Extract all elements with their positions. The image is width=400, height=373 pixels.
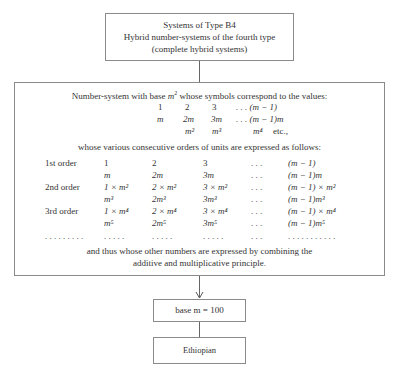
order-cell: (m − 1)m³ xyxy=(288,194,325,205)
closing-line-1: and thus whose other numbers are express… xyxy=(14,246,385,257)
order-cell: (m − 1)m xyxy=(288,170,322,181)
order-label: . . . . . . . . . xyxy=(45,231,83,242)
orders-intro: whose various consecutive orders of unit… xyxy=(14,142,385,153)
order-label: 3rd order xyxy=(45,206,78,217)
order-cell: 1 × m² xyxy=(104,182,128,193)
arrow-down-icon xyxy=(195,290,204,299)
order-cell: . . . xyxy=(251,194,262,205)
order-cell: 2 × m² xyxy=(152,182,176,193)
order-cell: . . . . . xyxy=(104,231,124,242)
order-cell: m⁵ xyxy=(104,218,114,229)
order-cell: 3m³ xyxy=(203,194,217,205)
symbol-r1-c2: 2 xyxy=(185,102,190,113)
symbol-r3-c5: etc., xyxy=(273,126,288,137)
symbol-r1-c4: . . . (m − 1) xyxy=(236,102,277,113)
order-cell: 3 xyxy=(203,158,208,169)
order-cell: 2m⁵ xyxy=(152,218,166,229)
order-cell: . . . xyxy=(251,170,262,181)
order-cell: (m − 1) × m² xyxy=(288,182,335,193)
order-label: 2nd order xyxy=(45,182,80,193)
order-cell: m xyxy=(104,170,111,181)
order-cell: 3 × m⁴ xyxy=(203,206,228,217)
result-box-label: Ethiopian xyxy=(153,345,246,356)
order-cell: 2m³ xyxy=(152,194,166,205)
order-cell: (m − 1) × m⁴ xyxy=(288,206,336,217)
order-cell: 1 × m⁴ xyxy=(104,206,129,217)
order-cell: 2m xyxy=(152,170,163,181)
symbol-r2-c4: . . . (m − 1)m xyxy=(236,114,284,125)
symbol-r3-c3: m³ xyxy=(212,126,221,137)
order-cell: 3 × m² xyxy=(203,182,227,193)
symbol-r3-c2: m² xyxy=(185,126,194,137)
order-cell: 3m xyxy=(203,170,214,181)
order-cell: (m − 1)m⁵ xyxy=(288,218,325,229)
order-label: 1st order xyxy=(45,158,77,169)
order-cell: . . . xyxy=(251,158,262,169)
order-cell: 2 × m⁴ xyxy=(152,206,177,217)
symbol-r1-c1: 1 xyxy=(158,102,163,113)
closing-line-2: additive and multiplicative principle. xyxy=(14,258,385,269)
base-box-label: base m = 100 xyxy=(153,305,246,316)
order-cell: (m − 1) xyxy=(288,158,316,169)
symbol-r2-c3: 3m xyxy=(211,114,222,125)
order-cell: 3m⁵ xyxy=(203,218,217,229)
top-box-note: (complete hybrid systems) xyxy=(105,44,294,55)
order-cell: . . . . . xyxy=(203,231,223,242)
top-box-title: Systems of Type B4 xyxy=(105,20,294,31)
order-cell: . . . . . . . . . . . xyxy=(288,231,335,242)
symbol-r3-c4: m⁴ xyxy=(253,126,263,137)
top-box-subtitle: Hybrid number-systems of the fourth type xyxy=(105,32,294,43)
order-cell: . . . xyxy=(251,231,262,242)
symbol-r2-c2: 2m xyxy=(183,114,194,125)
order-cell: . . . xyxy=(251,206,262,217)
order-cell: . . . xyxy=(251,218,262,229)
main-intro: Number-system with base m2 whose symbols… xyxy=(14,91,385,102)
connector-base-result xyxy=(199,322,200,337)
symbol-r1-c3: 3 xyxy=(212,102,217,113)
connector-top-main xyxy=(199,61,200,83)
order-cell: . . . xyxy=(251,182,262,193)
order-cell: . . . . . xyxy=(152,231,172,242)
order-cell: m³ xyxy=(104,194,113,205)
symbol-r2-c1: m xyxy=(157,114,164,125)
order-cell: 2 xyxy=(152,158,157,169)
order-cell: 1 xyxy=(104,158,109,169)
